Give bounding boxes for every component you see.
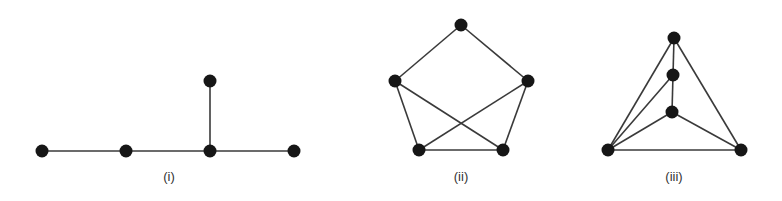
vertex [667,69,680,82]
vertex [666,106,679,119]
graph-label-iii: (iii) [665,169,682,184]
graph-label-i: (i) [163,169,175,184]
vertex [204,75,217,88]
edge [672,112,741,150]
graph-iii [602,32,748,157]
vertex [389,75,402,88]
edge [503,81,528,150]
vertex [455,19,468,32]
vertex [668,32,681,45]
vertex [735,144,748,157]
vertex [602,144,615,157]
vertex [522,75,535,88]
edge [395,25,461,81]
vertex [288,145,301,158]
edge [461,25,528,81]
vertex [413,144,426,157]
graph-figure: (i) (ii) (iii) [0,0,782,201]
graph-ii [389,19,535,157]
edge [608,38,674,150]
vertex [497,144,510,157]
graph-i [36,75,301,158]
graph-label-ii: (ii) [454,169,468,184]
edge [395,81,503,150]
vertex [204,145,217,158]
edge [395,81,419,150]
vertex [120,145,133,158]
edge [608,112,672,150]
edge [608,75,673,150]
vertex [36,145,49,158]
edge [419,81,528,150]
edge [674,38,741,150]
